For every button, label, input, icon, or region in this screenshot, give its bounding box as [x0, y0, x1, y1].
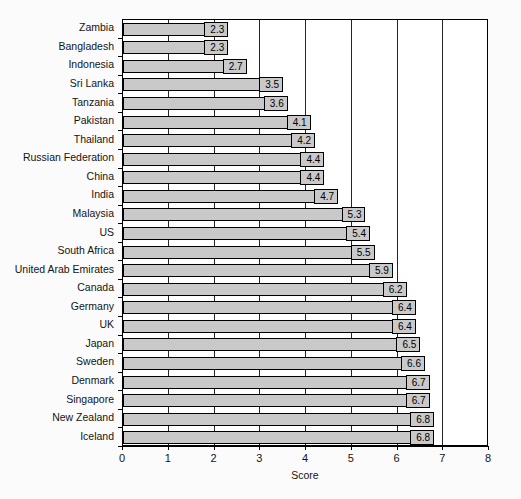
bar-value-label: 2.7	[223, 59, 247, 74]
bar-value-label: 6.8	[410, 412, 434, 427]
bar-value-label: 5.3	[342, 207, 366, 222]
category-label: Pakistan	[0, 115, 118, 126]
bar	[123, 376, 430, 389]
bar-value-label: 4.7	[314, 189, 338, 204]
bar-value-label: 3.6	[264, 96, 288, 111]
y-axis-tick	[118, 316, 122, 317]
bar-row: 2.3	[123, 41, 489, 54]
bar-value-label: 4.4	[300, 170, 324, 185]
x-axis-tick-label: 4	[290, 452, 320, 464]
category-label: Malaysia	[0, 208, 118, 219]
x-axis-tick	[259, 446, 260, 450]
y-axis-tick	[118, 446, 122, 447]
category-label: Canada	[0, 282, 118, 293]
bar	[123, 283, 407, 296]
bar-row: 6.2	[123, 283, 489, 296]
bar-value-label: 4.2	[291, 133, 315, 148]
bar	[123, 394, 430, 407]
x-axis-tick-label: 7	[427, 452, 457, 464]
category-label: Bangladesh	[0, 41, 118, 52]
x-axis-tick	[442, 446, 443, 450]
category-label: US	[0, 227, 118, 238]
bar-value-label: 2.3	[204, 22, 228, 37]
category-label: Iceland	[0, 431, 118, 442]
bar-value-label: 3.5	[259, 77, 283, 92]
y-axis-tick	[118, 186, 122, 187]
bar-value-label: 6.5	[396, 337, 420, 352]
y-axis-tick	[118, 335, 122, 336]
y-axis-tick	[118, 372, 122, 373]
x-axis-tick	[351, 446, 352, 450]
x-axis-tick	[168, 446, 169, 450]
y-axis-tick	[118, 242, 122, 243]
x-axis-tick-label: 6	[382, 452, 412, 464]
bar-row: 4.1	[123, 116, 489, 129]
bar	[123, 208, 365, 221]
bar-row: 6.4	[123, 320, 489, 333]
category-label: Indonesia	[0, 59, 118, 70]
bar	[123, 134, 315, 147]
bar	[123, 116, 311, 129]
bar-row: 2.7	[123, 60, 489, 73]
bar-row: 6.4	[123, 301, 489, 314]
x-axis-tick	[214, 446, 215, 450]
bar-row: 5.4	[123, 227, 489, 240]
x-axis-tick-label: 0	[107, 452, 137, 464]
bar	[123, 153, 324, 166]
bar	[123, 357, 425, 370]
bar	[123, 431, 434, 444]
category-label: India	[0, 189, 118, 200]
bar-row: 5.3	[123, 208, 489, 221]
y-axis-tick	[118, 390, 122, 391]
y-axis-tick	[118, 260, 122, 261]
category-label: Singapore	[0, 394, 118, 405]
plot-area: 2.32.32.73.53.64.14.24.44.44.75.35.45.55…	[122, 19, 488, 446]
category-label: Thailand	[0, 134, 118, 145]
bar-row: 6.8	[123, 413, 489, 426]
category-label: Sweden	[0, 356, 118, 367]
category-label: South Africa	[0, 245, 118, 256]
x-axis-tick	[122, 446, 123, 450]
category-label: United Arab Emirates	[0, 264, 118, 275]
bar-row: 6.7	[123, 376, 489, 389]
x-axis-title: Score	[122, 469, 488, 481]
x-axis-tick-label: 8	[473, 452, 503, 464]
bar	[123, 413, 434, 426]
bar-row: 6.8	[123, 431, 489, 444]
bar	[123, 301, 416, 314]
bar-value-label: 5.5	[351, 245, 375, 260]
category-label: Denmark	[0, 375, 118, 386]
category-label: Sri Lanka	[0, 78, 118, 89]
bar-row: 4.7	[123, 190, 489, 203]
bar-value-label: 6.2	[383, 282, 407, 297]
bar-row: 3.5	[123, 78, 489, 91]
category-label: Russian Federation	[0, 152, 118, 163]
bar-chart: ZambiaBangladeshIndonesiaSri LankaTanzan…	[0, 0, 521, 499]
bar-row: 4.4	[123, 153, 489, 166]
bar-value-label: 6.8	[410, 430, 434, 445]
x-axis-tick	[488, 446, 489, 450]
y-axis-tick	[118, 56, 122, 57]
bar-row: 5.5	[123, 246, 489, 259]
bar-value-label: 4.1	[287, 115, 311, 130]
bar-value-label: 2.3	[204, 40, 228, 55]
y-axis-tick	[118, 75, 122, 76]
bar-row: 5.9	[123, 264, 489, 277]
x-axis-tick-label: 3	[244, 452, 274, 464]
bar-value-label: 5.9	[369, 263, 393, 278]
category-label: Japan	[0, 338, 118, 349]
bar	[123, 190, 338, 203]
bar	[123, 320, 416, 333]
bar-row: 3.6	[123, 97, 489, 110]
category-label: Tanzania	[0, 97, 118, 108]
category-label: UK	[0, 319, 118, 330]
bar	[123, 171, 324, 184]
bar	[123, 246, 375, 259]
bar-value-label: 6.6	[401, 356, 425, 371]
x-axis-tick-label: 2	[199, 452, 229, 464]
bar	[123, 264, 393, 277]
y-axis-tick	[118, 297, 122, 298]
y-axis-tick	[118, 112, 122, 113]
bar-row: 4.2	[123, 134, 489, 147]
y-axis-tick	[118, 93, 122, 94]
